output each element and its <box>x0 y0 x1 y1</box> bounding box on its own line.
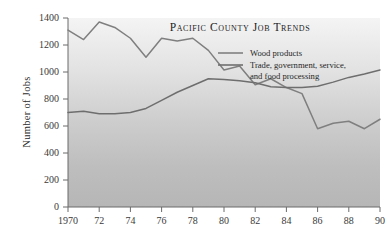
y-tick-label: 800 <box>44 93 59 104</box>
x-tick-label: 74 <box>125 215 135 226</box>
plot-area-background <box>68 18 380 207</box>
legend-label-trade-line2: and food processing <box>250 71 320 81</box>
y-tick-label: 1200 <box>39 39 59 50</box>
chart-title: Pacific County Job Trends <box>170 21 311 33</box>
y-tick-label: 600 <box>44 120 59 131</box>
x-tick-label: 76 <box>157 215 167 226</box>
y-tick-label: 0 <box>54 201 59 212</box>
legend-label-trade-line1: Trade, government, service, <box>250 60 346 70</box>
legend-label-wood-products: Wood products <box>250 48 303 58</box>
y-axis-title: Number of Jobs <box>21 76 32 147</box>
y-tick-label: 200 <box>44 174 59 185</box>
x-tick-label: 88 <box>344 215 354 226</box>
x-tick-label: 1970 <box>58 215 78 226</box>
x-tick-label: 72 <box>94 215 104 226</box>
chart-figure: 0200400600800100012001400 19707274767880… <box>0 0 392 239</box>
y-axis-ticks: 0200400600800100012001400 <box>39 12 68 212</box>
x-tick-label: 84 <box>281 215 291 226</box>
x-tick-label: 78 <box>188 215 198 226</box>
y-tick-label: 1000 <box>39 66 59 77</box>
x-tick-label: 90 <box>375 215 385 226</box>
x-tick-label: 86 <box>313 215 323 226</box>
y-tick-label: 1400 <box>39 12 59 23</box>
x-tick-label: 82 <box>250 215 260 226</box>
y-tick-label: 400 <box>44 147 59 158</box>
x-axis-ticks: 197072747678808284868890 <box>58 207 385 226</box>
x-tick-label: 80 <box>219 215 229 226</box>
job-trends-line-chart: 0200400600800100012001400 19707274767880… <box>0 0 392 239</box>
